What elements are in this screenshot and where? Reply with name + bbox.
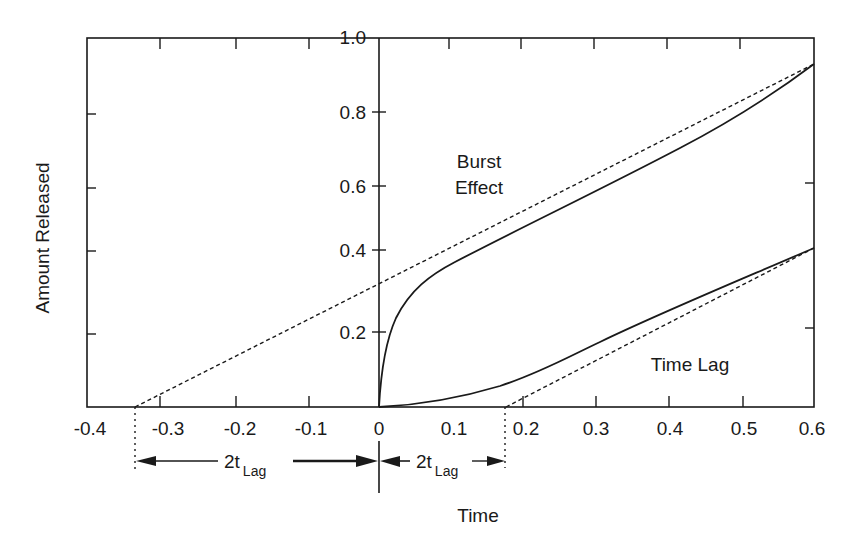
left-lag-label: 2tLag xyxy=(224,451,266,479)
right-lag-label: 2tLag xyxy=(416,451,458,479)
y-tick-0.6: 0.6 xyxy=(340,176,366,197)
burst-effect-curve xyxy=(379,64,814,407)
x-tick--0.2: -0.2 xyxy=(224,418,257,439)
y-tick-0.2: 0.2 xyxy=(340,322,366,343)
x-tick--0.1: -0.1 xyxy=(295,418,328,439)
x-tick--0.3: -0.3 xyxy=(152,418,185,439)
burst-label-line2: Effect xyxy=(455,177,504,198)
right-y-ticks xyxy=(805,183,814,328)
top-x-ticks xyxy=(160,38,740,49)
x-tick-0.6: 0.6 xyxy=(799,418,825,439)
y-tick-0.4: 0.4 xyxy=(340,240,367,261)
y-tick-0.8: 0.8 xyxy=(340,102,366,123)
lag-asymptote-line xyxy=(506,248,814,407)
y-tick-labels: 1.0 0.8 0.6 0.4 0.2 xyxy=(340,27,367,343)
x-tick-labels: -0.4 -0.3 -0.2 -0.1 0 0.1 0.2 0.3 0.4 0.… xyxy=(74,418,826,439)
y-axis-title: Amount Released xyxy=(32,162,53,313)
plot-frame xyxy=(87,38,814,407)
x-tick-0.5: 0.5 xyxy=(731,418,757,439)
time-lag-label: Time Lag xyxy=(651,354,730,375)
x-tick-0.2: 0.2 xyxy=(513,418,539,439)
x-tick-0: 0 xyxy=(374,418,385,439)
x-tick-0.3: 0.3 xyxy=(583,418,609,439)
left-y-ticks xyxy=(87,114,96,334)
time-lag-curve xyxy=(379,248,814,407)
x-tick-0.4: 0.4 xyxy=(657,418,684,439)
x-axis-title: Time xyxy=(457,505,499,526)
x-tick--0.4: -0.4 xyxy=(74,418,107,439)
release-chart: 1.0 0.8 0.6 0.4 0.2 -0.4 -0.3 -0.2 -0.1 … xyxy=(0,0,854,548)
y-tick-1.0: 1.0 xyxy=(340,27,366,48)
burst-label-line1: Burst xyxy=(457,151,502,172)
x-tick-0.1: 0.1 xyxy=(441,418,467,439)
